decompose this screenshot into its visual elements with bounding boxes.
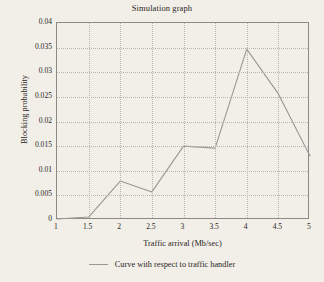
x-axis-tick-label: 2: [106, 223, 132, 231]
x-axis-tick-label: 1: [43, 223, 69, 231]
gridline-horizontal: [57, 48, 308, 49]
gridline-horizontal: [57, 171, 308, 172]
y-axis-title: Blocking probability: [20, 30, 29, 190]
chart-legend: Curve with respect to traffic handler: [0, 260, 324, 269]
gridline-horizontal: [57, 195, 308, 196]
x-axis-tick-label: 5: [296, 223, 322, 231]
gridline-horizontal: [57, 72, 308, 73]
x-axis-tick-label: 1.5: [75, 223, 101, 231]
x-axis-tick-label: 2.5: [138, 223, 164, 231]
x-axis-title: Traffic arrival (Mb/sec): [56, 239, 309, 248]
chart-figure: Simulation graph 00.0050.010.0150.020.02…: [0, 0, 324, 282]
gridline-vertical: [184, 23, 185, 218]
gridline-vertical: [152, 23, 153, 218]
y-axis-tick-label: 0: [4, 215, 52, 223]
x-axis-tick-label: 4.5: [264, 223, 290, 231]
gridline-horizontal: [57, 146, 308, 147]
legend-label: Curve with respect to traffic handler: [115, 260, 235, 269]
x-axis-tick-label: 3: [170, 223, 196, 231]
gridline-vertical: [247, 23, 248, 218]
y-axis-tick-label: 0.04: [4, 18, 52, 26]
gridline-horizontal: [57, 97, 308, 98]
legend-line-swatch-icon: [89, 264, 108, 265]
gridline-vertical: [89, 23, 90, 218]
y-axis-tick-label: 0.005: [4, 190, 52, 198]
gridline-vertical: [120, 23, 121, 218]
gridline-horizontal: [57, 122, 308, 123]
plot-area: [56, 22, 309, 219]
x-axis-tick-label: 4: [233, 223, 259, 231]
gridline-vertical: [215, 23, 216, 218]
gridline-vertical: [278, 23, 279, 218]
x-axis-tick-label: 3.5: [201, 223, 227, 231]
